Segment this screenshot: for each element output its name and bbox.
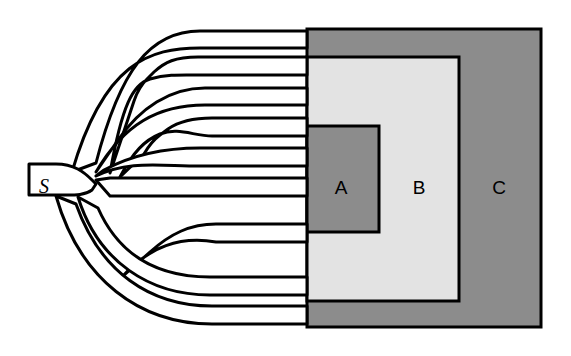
channel-network-figure: S A B C xyxy=(0,0,571,356)
region-label-C: C xyxy=(492,177,506,198)
channel-network-group xyxy=(29,31,307,324)
diagram-canvas: S A B C xyxy=(0,0,571,356)
source-label: S xyxy=(39,175,49,197)
region-label-B: B xyxy=(413,177,426,198)
channel-path-5 xyxy=(96,148,307,176)
channel-path-6 xyxy=(96,178,307,196)
region-label-A: A xyxy=(335,177,348,198)
